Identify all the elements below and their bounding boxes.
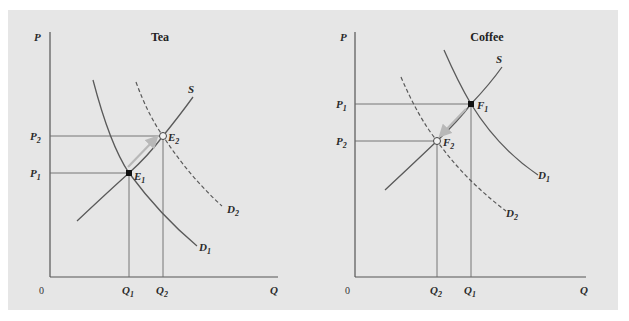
coffee-f1-point: [468, 101, 474, 107]
tea-shift-arrow: [128, 140, 154, 167]
tea-d1-label: D1: [198, 241, 211, 256]
tea-e2-point: [160, 133, 167, 140]
coffee-demand-d1-curve: [444, 50, 538, 175]
tea-d2-label: D2: [226, 203, 239, 218]
coffee-q1-label: Q1: [464, 284, 476, 299]
tea-x-axis-label: Q: [270, 284, 278, 296]
coffee-p1-label: P1: [336, 98, 347, 113]
tea-origin-label: 0: [39, 285, 44, 296]
coffee-f2-label: F2: [442, 136, 454, 151]
coffee-d2-label: D2: [505, 207, 518, 222]
tea-q1-label: Q1: [122, 284, 134, 299]
tea-e2-label: E2: [167, 131, 179, 146]
tea-p1-label: P1: [30, 167, 41, 182]
coffee-chart: Coffee P Q 0 S D1 D2 F1 F2 P1 P2: [336, 30, 588, 299]
tea-p2-label: P2: [30, 130, 41, 145]
tea-e1-label: E1: [133, 170, 145, 185]
coffee-title: Coffee: [470, 30, 504, 44]
coffee-x-axis-label: Q: [580, 284, 588, 296]
coffee-origin-label: 0: [345, 285, 350, 296]
coffee-supply-curve: [385, 67, 502, 190]
coffee-shift-arrow: [443, 109, 466, 133]
tea-title: Tea: [151, 30, 169, 44]
coffee-d1-label: D1: [537, 169, 550, 184]
coffee-q2-label: Q2: [430, 284, 442, 299]
coffee-f2-point: [434, 138, 441, 145]
tea-supply-label: S: [188, 83, 194, 95]
tea-chart: Tea P Q 0 S D1 D2 E1 E2 P2 P1 Q1: [30, 30, 278, 299]
tea-q2-label: Q2: [156, 284, 168, 299]
tea-e1-point: [126, 170, 132, 176]
coffee-f1-label: F1: [476, 99, 488, 114]
supply-demand-diagrams: Tea P Q 0 S D1 D2 E1 E2 P2 P1 Q1: [0, 0, 629, 321]
tea-y-axis-label: P: [34, 31, 41, 43]
coffee-y-axis-label: P: [340, 31, 347, 43]
coffee-supply-label: S: [496, 53, 502, 65]
coffee-p2-label: P2: [336, 135, 347, 150]
